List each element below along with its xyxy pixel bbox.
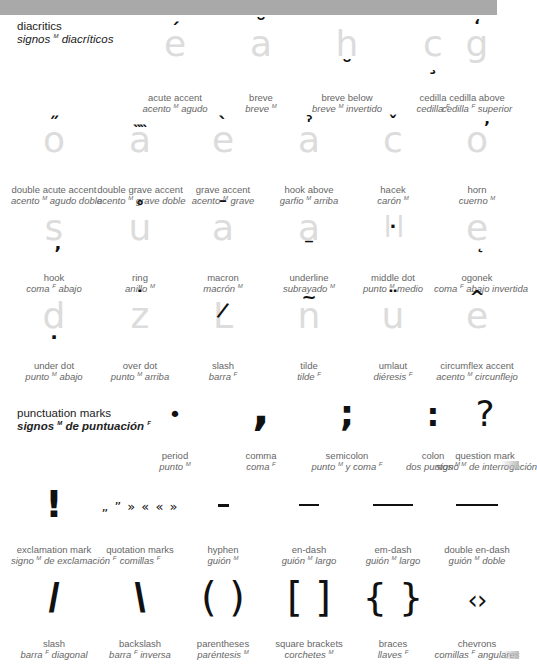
punct-exclamation-mark: ! exclamation mark signo M de exclamació… <box>11 478 97 566</box>
diacritic-circumflex-accent: e ^ circumflex accent acento M circunfle… <box>434 292 520 382</box>
diacritic-double-grave-accent: a ˵˵ double grave accent acento M grave … <box>97 116 183 206</box>
em-dash-icon <box>373 504 413 506</box>
diacritic-horn: o ʼ horn cuerno M <box>434 116 520 206</box>
diacritic-underline: a _ underline subrayado M <box>266 204 352 294</box>
question-mark-icon: ? <box>440 388 530 440</box>
page-edge-fade <box>501 651 519 659</box>
punct-en-dash: en-dash guión M largo <box>266 478 352 566</box>
circumflex-icon: ^ <box>434 286 520 307</box>
punct-quotation-marks: „ ” » « « » quotation marks comillas F <box>97 478 183 566</box>
punct-chevrons: ‹› chevrons comillas F angulares <box>434 572 520 660</box>
diacritic-middle-dot: l l · middle dot punto M medio <box>350 204 436 294</box>
over-dot-icon: ˙ <box>97 286 183 310</box>
slash-icon: / <box>11 572 97 624</box>
hook-icon: , <box>19 232 97 253</box>
diacritic-breve-below: h ˘ breve below breve M invertido <box>304 20 390 114</box>
backslash-icon: \ <box>97 572 183 624</box>
square-brackets-icon: [ ] <box>266 572 352 622</box>
underline-icon: _ <box>266 224 352 243</box>
ring-icon: ˚ <box>97 198 183 222</box>
breve-icon: ˘ <box>218 14 304 39</box>
section-title-en: diacritics <box>17 20 113 33</box>
chevrons-icon: ‹› <box>434 572 520 628</box>
page-edge-fade <box>501 461 519 469</box>
quotation-marks-icon: „ ” » « « » <box>97 478 183 536</box>
punct-em-dash: em-dash guión M largo <box>350 478 436 566</box>
punct-hyphen: hyphen guión M <box>180 478 266 566</box>
punct-braces: { } braces llaves F <box>350 572 436 660</box>
section-title-en: punctuation marks <box>17 407 151 420</box>
section-title-es: signos M diacríticos <box>17 33 113 46</box>
semicolon-icon: ; <box>304 388 390 440</box>
diacritic-macron: a ¯ macron macrón M <box>180 204 266 294</box>
punct-period: • period punto M <box>132 388 218 472</box>
tilde-icon: ~ <box>266 286 352 307</box>
horn-icon: ʼ <box>454 118 520 137</box>
ogonek-icon: ˛ <box>440 232 520 253</box>
diacritic-acute-accent: e ´ acute accent acento M agudo <box>132 20 218 114</box>
punct-parentheses: ( ) parentheses paréntesis M <box>180 572 266 660</box>
section-title-punctuation: punctuation marks signos M de puntuación… <box>17 407 151 433</box>
en-dash-icon <box>299 504 319 506</box>
braces-icon: { } <box>350 572 436 622</box>
punct-semicolon: ; semicolon punto M y coma F <box>304 388 390 472</box>
punct-question-mark: ? question mark signo M de interrogación <box>440 388 530 472</box>
diacritic-double-acute-accent: o ˝ double acute accent acento M agudo d… <box>11 116 97 206</box>
diacritic-over-dot: z ˙ over dot punto M arriba <box>97 292 183 382</box>
cedilla-above-icon: ‘ <box>434 16 520 35</box>
diacritic-umlaut: u ¨ umlaut diéresis F <box>350 292 436 382</box>
diacritic-breve: a ˘ breve breve M <box>218 20 304 114</box>
punct-comma: , comma coma F <box>218 388 304 472</box>
breve-below-icon: ˘ <box>304 56 390 81</box>
diacritic-hacek: c ˇ hacek carón M <box>350 116 436 206</box>
punct-square-brackets: [ ] square brackets corchetes M <box>266 572 352 660</box>
umlaut-icon: ¨ <box>350 286 436 311</box>
diacritic-under-dot: d . under dot punto M abajo <box>11 292 97 382</box>
grave-accent-icon: ` <box>180 112 266 136</box>
exclamation-mark-icon: ! <box>11 478 97 530</box>
hacek-icon: ˇ <box>350 112 436 133</box>
section-title-diacritics: diacritics signos M diacríticos <box>17 20 113 46</box>
double-grave-accent-icon: ˵˵ <box>97 112 183 134</box>
diacritic-tilde: n ~ tilde tilde F <box>266 292 352 382</box>
diacritic-ring: u ˚ ring anillo M <box>97 204 183 294</box>
diacritic-slash: L / slash barra F <box>180 292 266 382</box>
under-dot-icon: . <box>11 320 97 344</box>
double-acute-accent-icon: ˝ <box>11 112 97 136</box>
diacritic-ogonek: e ˛ ogonek coma F abajo invertida <box>434 204 520 294</box>
diacritic-cedilla-above: g ‘ cedilla above cedilla F superior <box>434 20 520 114</box>
parentheses-icon: ( ) <box>180 572 266 622</box>
section-title-es: signos M de puntuación F <box>17 420 151 433</box>
diacritic-hook-above: a ˀ hook above garfio M arriba <box>266 116 352 206</box>
period-icon: • <box>132 388 218 442</box>
punct-double-en-dash: double en-dash guión M doble <box>434 478 520 566</box>
hyphen-icon <box>218 504 229 507</box>
top-header-bar <box>0 0 497 15</box>
punct-backslash: \ backslash barra F inversa <box>97 572 183 660</box>
diacritic-grave-accent: e ` grave accent acento M grave <box>180 116 266 206</box>
macron-icon: ¯ <box>180 196 266 220</box>
double-en-dash-icon <box>456 504 498 506</box>
middle-dot-icon: · <box>350 216 436 237</box>
punct-slash: / slash barra F diagonal <box>11 572 97 660</box>
comma-icon: , <box>218 388 304 428</box>
hook-above-icon: ˀ <box>266 112 352 131</box>
diacritic-hook: s , hook coma F abajo <box>11 204 97 294</box>
acute-accent-icon: ´ <box>132 18 218 42</box>
